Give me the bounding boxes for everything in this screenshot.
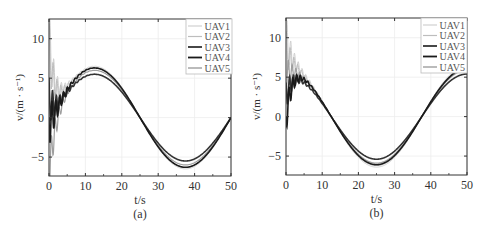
legend-label: UAV1 [205,21,230,32]
x-tick-label: 0 [46,179,52,193]
y-tick-label: −5 [268,149,281,163]
y-tick-label: 0 [275,110,281,124]
legend: UAV1UAV2UAV3UAV4UAV5 [421,18,467,73]
x-tick-label: 40 [189,179,201,193]
legend-label: UAV1 [440,20,465,31]
legend-label: UAV2 [205,31,230,42]
legend-label: UAV3 [440,41,465,52]
x-tick-label: 20 [352,178,364,192]
legend-label: UAV4 [205,52,230,63]
chart-panel-b: 01020304050t/s(b)−50510v/(m · s⁻¹)UAV1UA… [250,18,473,220]
x-tick-label: 40 [425,178,437,192]
y-tick-label: 10 [269,31,281,45]
x-tick-label: 10 [79,179,91,193]
x-tick-label: 50 [225,179,237,193]
y-tick-label: 10 [32,32,44,46]
legend-label: UAV3 [205,42,230,53]
x-tick-label: 20 [116,179,128,193]
legend-label: UAV5 [440,62,465,73]
legend-label: UAV5 [205,63,230,74]
x-tick-label: 50 [461,178,473,192]
y-axis-label: v/(m · s⁻¹) [250,73,263,120]
y-axis-label: v/(m · s⁻¹) [13,74,26,121]
y-tick-label: −5 [31,150,44,164]
y-tick-label: 5 [275,70,281,84]
y-tick-label: 0 [38,111,44,125]
series-uav5 [286,61,467,164]
x-tick-label: 30 [152,179,164,193]
x-tick-label: 30 [389,178,401,192]
legend-label: UAV4 [440,51,465,62]
series-uav5 [49,70,231,192]
chart-figure: 01020304050t/s(a)−50510v/(m · s⁻¹)UAV1UA… [0,0,484,230]
chart-panel-a: 01020304050t/s(a)−50510v/(m · s⁻¹)UAV1UA… [13,18,237,221]
x-tick-label: 10 [316,178,328,192]
y-tick-label: 5 [38,71,44,85]
legend-label: UAV2 [440,30,465,41]
x-axis-label: t/s [134,193,146,207]
panel-label: (b) [370,206,384,220]
legend: UAV1UAV2UAV3UAV4UAV5 [186,19,232,74]
x-tick-label: 0 [283,178,289,192]
panel-label: (a) [133,207,146,221]
x-axis-label: t/s [371,192,383,206]
